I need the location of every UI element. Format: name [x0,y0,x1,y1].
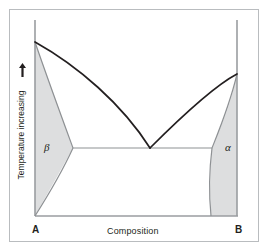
beta-phase-region [35,42,73,216]
y-axis-label: Temperature increasing [16,91,26,180]
alpha-phase-label: α [225,141,231,153]
beta-phase-label: β [44,141,49,153]
x-axis-label: Composition [107,226,159,236]
alpha-phase-region [210,74,237,216]
y-axis-label-wrapper: Temperature increasing [14,60,28,210]
x-axis-endpoint-a: A [32,224,39,235]
x-axis-endpoint-b: B [235,224,242,235]
phase-diagram-figure: Temperature increasing Composition A B β… [0,0,270,252]
phase-diagram-plot [0,0,270,252]
